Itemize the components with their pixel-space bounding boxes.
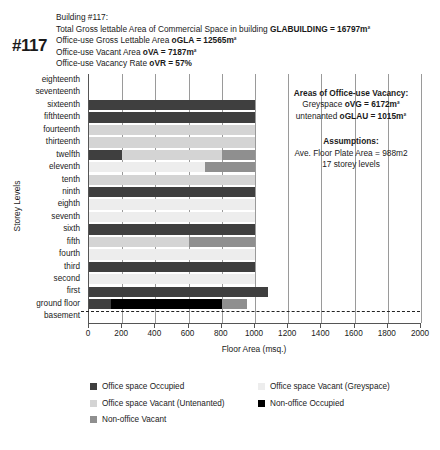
bar-segment: [89, 137, 255, 147]
bar-segment: [89, 287, 268, 297]
bar-row: [89, 285, 420, 297]
legend-label: Office space Occupied: [102, 382, 184, 391]
y-axis-label: ninth: [22, 186, 84, 198]
assumptions-title: Assumptions:: [268, 136, 434, 147]
assumptions-floor-plate: Ave. Floor Plate Area = 988m2: [268, 148, 434, 159]
y-axis-label: first: [22, 285, 84, 297]
bar-segment: [89, 274, 255, 284]
ground-level-dashed-line: [81, 311, 420, 312]
header-block: #117 Building #117: Total Gross lettable…: [0, 12, 440, 74]
bar-segment: [89, 162, 205, 172]
y-axis-label: fourth: [22, 248, 84, 260]
y-axis-label: twelfth: [22, 149, 84, 161]
y-axis-tick-labels: eighteenthseventeenthsixteenthfifthteent…: [22, 74, 84, 323]
y-axis-title: Storey Levels: [12, 146, 22, 266]
header-text-lines: Building #117: Total Gross lettable Area…: [56, 12, 428, 70]
legend-swatch-icon: [258, 400, 265, 407]
bar-row: [89, 74, 420, 86]
bar-row: [89, 186, 420, 198]
y-axis-label: eleventh: [22, 161, 84, 173]
y-axis-label: sixth: [22, 223, 84, 235]
legend-row: Office space OccupiedOffice space Vacant…: [90, 382, 440, 399]
bar-segment: [89, 212, 255, 222]
x-axis-title: Floor Area (msq.): [88, 344, 420, 354]
annotation-spacer: [268, 122, 434, 136]
bar-segment: [89, 262, 255, 272]
vacancy-greyspace: Greyspace oVG = 6172m²: [268, 99, 434, 110]
y-axis-label: sixteenth: [22, 99, 84, 111]
bar-segment: [222, 150, 255, 160]
y-axis-label: tenth: [22, 174, 84, 186]
y-axis-label: ground floor: [22, 298, 84, 310]
header-line-ovr: Office-use Vacancy Rate oVR = 57%: [56, 58, 428, 70]
legend-label: Office space Vacant (Greyspace): [270, 382, 390, 391]
chart-legend: Office space OccupiedOffice space Vacant…: [90, 382, 440, 432]
y-axis-label: basement: [22, 310, 84, 322]
bar-row: [89, 223, 420, 235]
vacancy-untenanted: untenanted oGLAU = 1015m²: [268, 111, 434, 122]
bar-segment: [111, 299, 222, 309]
x-axis-tick: [287, 323, 288, 328]
assumptions-storeys: 17 storey levels: [268, 159, 434, 170]
y-axis-label: fifth: [22, 236, 84, 248]
bar-segment: [205, 162, 255, 172]
assumptions-annotation: Assumptions: Ave. Floor Plate Area = 988…: [268, 136, 434, 170]
legend-swatch-icon: [258, 383, 265, 390]
bar-segment: [89, 199, 255, 209]
legend-label: Non-office Vacant: [102, 415, 166, 424]
bar-row: [89, 236, 420, 248]
legend-item[interactable]: Office space Vacant (Greyspace): [258, 382, 390, 391]
bar-row: [89, 198, 420, 210]
bar-row: [89, 273, 420, 285]
legend-row: Non-office Vacant: [90, 415, 440, 432]
bar-segment: [222, 299, 247, 309]
bar-segment: [89, 299, 111, 309]
bar-row: [89, 174, 420, 186]
y-axis-label: fourteenth: [22, 124, 84, 136]
bar-segment: [89, 125, 255, 135]
legend-item[interactable]: Office space Vacant (Untenanted): [90, 399, 225, 408]
y-axis-label: eighth: [22, 198, 84, 210]
legend-row: Office space Vacant (Untenanted)Non-offi…: [90, 399, 440, 416]
x-axis-tick: [88, 323, 89, 328]
bar-segment: [89, 112, 255, 122]
vacancy-title: Areas of Office-use Vacancy:: [268, 88, 434, 99]
bar-row: [89, 298, 420, 310]
legend-item[interactable]: Non-office Vacant: [90, 415, 166, 424]
x-axis-label: 2000: [400, 329, 440, 338]
y-axis-label: second: [22, 273, 84, 285]
x-axis-tick: [154, 323, 155, 328]
legend-item[interactable]: Non-office Occupied: [258, 399, 344, 408]
chart-page: #117 Building #117: Total Gross lettable…: [0, 0, 440, 450]
vacancy-annotation: Areas of Office-use Vacancy: Greyspace o…: [268, 88, 434, 122]
bar-row: [89, 248, 420, 260]
x-axis-tick: [254, 323, 255, 328]
legend-label: Non-office Occupied: [270, 399, 344, 408]
building-id-label: #117: [12, 36, 47, 56]
x-axis-ticks: [88, 323, 420, 328]
bar-segment: [89, 224, 255, 234]
y-axis-label: thirteenth: [22, 136, 84, 148]
bar-row: [89, 310, 420, 322]
bar-segment: [89, 187, 255, 197]
x-axis-tick: [387, 323, 388, 328]
x-axis-tick: [354, 323, 355, 328]
x-axis-tick: [121, 323, 122, 328]
header-line-glabuilding: Total Gross lettable Area of Commercial …: [56, 24, 428, 36]
x-axis-tick: [188, 323, 189, 328]
legend-swatch-icon: [90, 383, 97, 390]
bar-segment: [89, 249, 255, 259]
bar-segment: [89, 237, 189, 247]
y-axis-label: seventeenth: [22, 86, 84, 98]
x-axis-tick-labels: 0200400600800100012001400160018002000: [88, 329, 420, 341]
header-line-ogla: Office-use Gross Lettable Area oGLA = 12…: [56, 35, 428, 47]
legend-swatch-icon: [90, 400, 97, 407]
legend-swatch-icon: [90, 416, 97, 423]
bar-segment: [89, 100, 255, 110]
y-axis-label: eighteenth: [22, 74, 84, 86]
legend-item[interactable]: Office space Occupied: [90, 382, 184, 391]
x-axis-tick: [420, 323, 421, 328]
annotation-panel: Areas of Office-use Vacancy: Greyspace o…: [268, 88, 434, 170]
x-axis-tick: [320, 323, 321, 328]
x-axis-tick: [221, 323, 222, 328]
